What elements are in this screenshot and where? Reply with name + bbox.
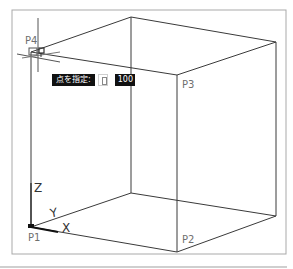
point-label-p4: P4: [25, 36, 37, 46]
ucs-x-label: X: [62, 222, 70, 234]
cube-wireframe: [0, 0, 293, 269]
viewport-separator: [0, 266, 287, 268]
drawing-viewport[interactable]: P4 P3 P2 P1 Z Y X 点を指定: 100: [0, 0, 293, 269]
point-label-p3: P3: [182, 80, 194, 90]
ucs-z-label: Z: [34, 182, 42, 194]
point-label-p1: P1: [28, 233, 40, 243]
prompt-label: 点を指定:: [52, 74, 95, 86]
dynamic-input-tooltip: 点を指定: 100: [52, 74, 135, 86]
point-label-p2: P2: [182, 235, 194, 245]
distance-input[interactable]: 100: [115, 74, 135, 86]
dynamic-input-icon: [98, 74, 108, 86]
